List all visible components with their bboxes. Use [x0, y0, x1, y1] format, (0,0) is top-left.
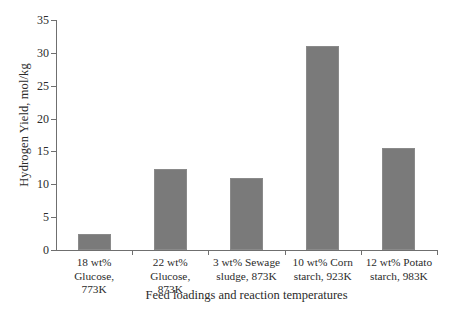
x-category-label: 3 wt% Sewagesludge, 873K [208, 256, 284, 283]
bar [306, 46, 339, 250]
y-tick-label: 5 [43, 210, 49, 225]
y-tick-label: 35 [37, 13, 49, 28]
x-category-label-line1: 12 wt% Potato [366, 256, 433, 268]
x-category-label-line1: 10 wt% Corn [293, 256, 353, 268]
y-tick-label: 25 [37, 78, 49, 93]
x-tick-mark [208, 250, 209, 255]
y-tick-label: 10 [37, 177, 49, 192]
y-tick-mark [51, 86, 56, 87]
y-tick-mark [51, 151, 56, 152]
bar [230, 178, 263, 250]
x-category-label-line1: 18 wt% Glucose, [74, 256, 114, 282]
y-tick-mark [51, 20, 56, 21]
x-category-label: 12 wt% Potatostarch, 983K [361, 256, 437, 283]
y-tick-label: 30 [37, 45, 49, 60]
y-tick-mark [51, 119, 56, 120]
y-axis-title: Hydrogen Yield, mol/kg [14, 0, 34, 250]
y-tick-mark [51, 184, 56, 185]
x-category-label-line2: starch, 923K [285, 270, 361, 284]
x-category-label-line2: starch, 983K [361, 270, 437, 284]
x-category-label-line1: 22 wt% Glucose, [150, 256, 190, 282]
x-axis-line [56, 250, 437, 251]
y-tick-mark [51, 53, 56, 54]
y-tick-label: 15 [37, 144, 49, 159]
x-category-label: 10 wt% Cornstarch, 923K [285, 256, 361, 283]
x-category-label-line1: 3 wt% Sewage [213, 256, 280, 268]
y-axis-line [56, 20, 57, 250]
x-tick-mark [437, 250, 438, 255]
y-tick-label: 20 [37, 111, 49, 126]
x-tick-mark [285, 250, 286, 255]
bar [382, 148, 415, 250]
x-tick-mark [361, 250, 362, 255]
bar [78, 234, 111, 250]
y-tick-mark [51, 250, 56, 251]
x-tick-mark [132, 250, 133, 255]
bar-chart-figure: Hydrogen Yield, mol/kg 05101520253035 18… [0, 0, 454, 313]
y-tick-label: 0 [43, 243, 49, 258]
y-tick-mark [51, 217, 56, 218]
x-axis-title: Feed loadings and reaction temperatures [56, 288, 437, 303]
plot-area: 05101520253035 18 wt% Glucose,773K22 wt%… [56, 20, 437, 250]
bar [154, 169, 187, 250]
x-category-label-line2: sludge, 873K [208, 270, 284, 284]
